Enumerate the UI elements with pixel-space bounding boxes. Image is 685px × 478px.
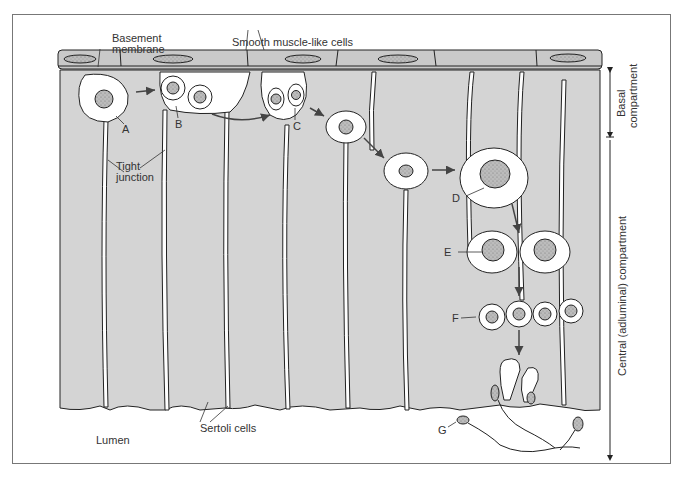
label-sertoli-cells: Sertoli cells <box>200 422 256 434</box>
label-basal-compartment: Basal <box>615 89 627 117</box>
label-lumen: Lumen <box>96 434 130 446</box>
label-basement-membrane-2: membrane <box>112 43 165 55</box>
label-e: E <box>444 246 451 258</box>
cell-d <box>460 148 528 208</box>
label-b: B <box>175 118 182 130</box>
compartment-axis <box>606 70 614 458</box>
diagram-illustration <box>0 0 685 478</box>
label-c: C <box>293 120 301 132</box>
label-g: G <box>438 424 447 436</box>
cell-intermediate-1 <box>326 111 366 143</box>
label-d: D <box>452 192 460 204</box>
label-basal-compartment-2: compartment <box>627 64 639 128</box>
label-a: A <box>122 123 129 135</box>
cell-intermediate-2 <box>384 153 428 189</box>
label-central-compartment: Central (adluminal) compartment <box>616 216 628 376</box>
label-f: F <box>452 312 459 324</box>
label-tight-junction-2: junction <box>116 171 154 183</box>
label-smooth-muscle: Smooth muscle-like cells <box>232 36 353 48</box>
